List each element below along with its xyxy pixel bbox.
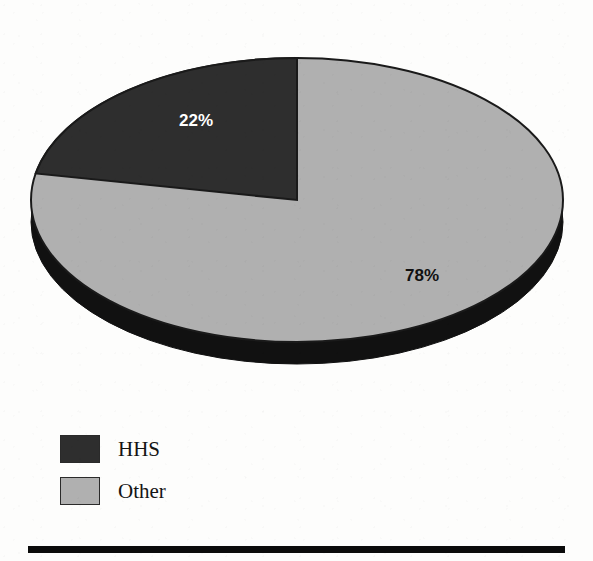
legend-label-hhs: HHS	[118, 439, 160, 460]
legend-item-hhs: HHS	[60, 428, 166, 470]
legend-swatch-hhs	[60, 435, 100, 463]
legend-label-other: Other	[118, 481, 166, 502]
legend-swatch-other	[60, 477, 100, 505]
page-title-clipped	[0, 0, 593, 2]
pie-slice-label-hhs: 22%	[179, 111, 213, 130]
horizontal-rule	[28, 546, 565, 553]
pie-chart: 22% 78%	[30, 32, 564, 388]
pie-chart-svg: 22% 78%	[30, 32, 564, 388]
pie-slice-label-other: 78%	[405, 266, 439, 285]
legend-item-other: Other	[60, 470, 166, 512]
chart-legend: HHS Other	[60, 428, 166, 512]
